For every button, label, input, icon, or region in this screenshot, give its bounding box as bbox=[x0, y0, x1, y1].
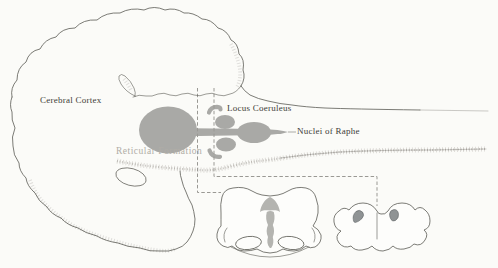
label-nuclei-of-raphe: Nuclei of Raphe bbox=[297, 126, 360, 136]
brainstem-top-line-fade bbox=[420, 110, 488, 111]
figure-brain-diagram: Cerebral Cortex Locus Coeruleus Nuclei o… bbox=[0, 0, 498, 268]
lower-lobe-shading bbox=[30, 180, 175, 251]
raphe-ellipse-large bbox=[237, 122, 271, 143]
pons-outline bbox=[334, 203, 430, 251]
lateral-sulcus-crescent bbox=[119, 75, 136, 97]
coeruleus-ellipse-bottom bbox=[216, 138, 236, 152]
brain-diagram-canvas bbox=[0, 0, 498, 268]
coeruleus-crescent-bottom bbox=[210, 151, 221, 157]
flocculus-oval bbox=[114, 165, 148, 189]
label-cerebral-cortex: Cerebral Cortex bbox=[40, 95, 101, 105]
pons-cross-section bbox=[334, 203, 430, 251]
label-reticular-formation: Reticular Formation bbox=[116, 146, 202, 156]
coeruleus-ellipse-top bbox=[215, 115, 235, 129]
label-locus-coeruleus: Locus Coeruleus bbox=[227, 103, 292, 113]
cortex-underside-line bbox=[133, 86, 241, 97]
medulla-cross-section bbox=[217, 187, 321, 257]
coeruleus-crescent-top bbox=[209, 107, 221, 113]
